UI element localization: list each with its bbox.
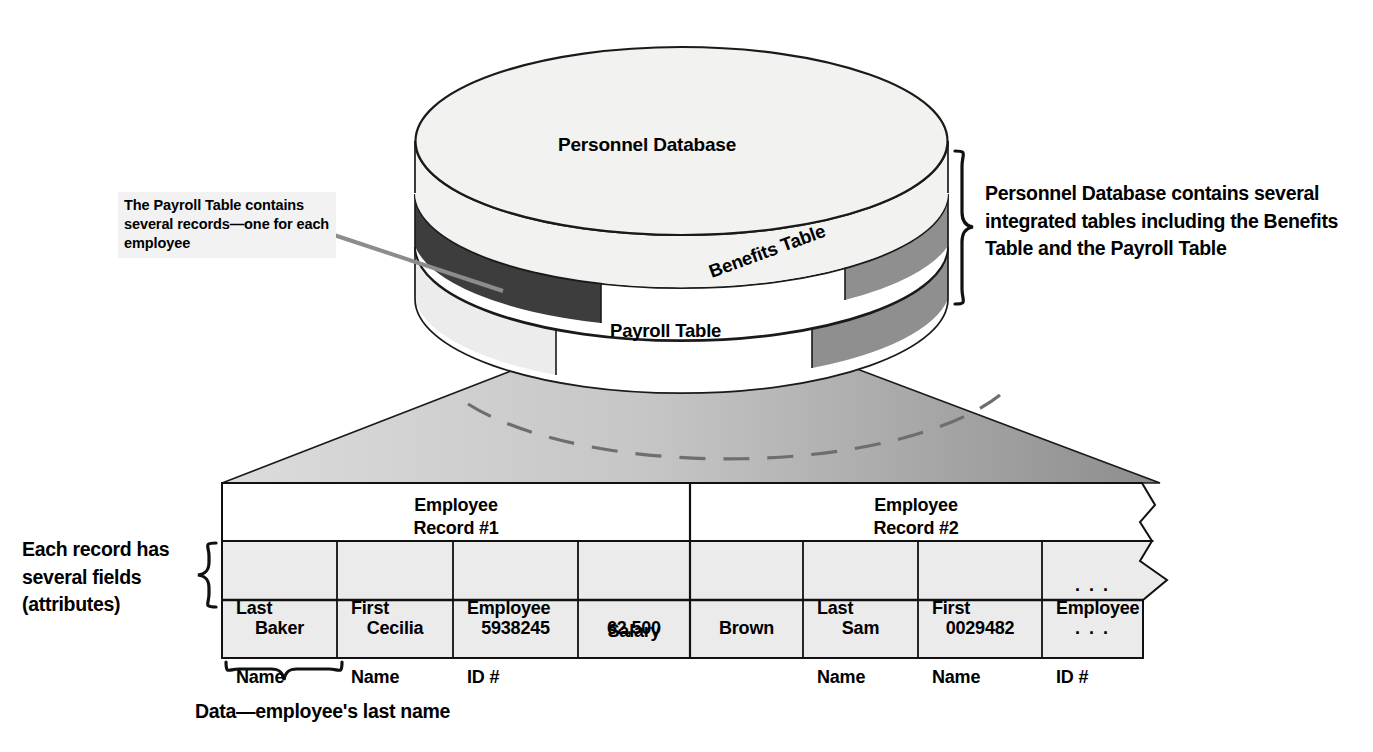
field-header-line2: Name bbox=[351, 666, 399, 689]
data-cell-last-name-1: Baker bbox=[222, 617, 337, 640]
field-header-line2: Name bbox=[932, 666, 980, 689]
field-header-line2: Name bbox=[236, 666, 284, 689]
record-header-label-2: Employee Record #2 bbox=[690, 494, 1142, 540]
data-cell-first-name-2: Sam bbox=[803, 617, 918, 640]
record-label-line2: Record #2 bbox=[690, 517, 1142, 540]
field-header-first-name-2: First Name bbox=[932, 551, 980, 735]
record-label-line1: Employee bbox=[690, 494, 1142, 517]
data-cell-last-name-2: Brown bbox=[690, 617, 803, 640]
record-header-label-1: Employee Record #1 bbox=[222, 494, 690, 540]
record-label-line1: Employee bbox=[222, 494, 690, 517]
data-cell-salary: 62,500 bbox=[578, 617, 690, 640]
field-header-last-name-1: Last Name bbox=[236, 551, 284, 735]
field-header-line2: ID # bbox=[1056, 666, 1139, 689]
field-header-line2: Name bbox=[817, 666, 865, 689]
diagram-canvas: Personnel Database Benefits Table Payrol… bbox=[0, 0, 1373, 752]
database-note-callout: Personnel Database contains several inte… bbox=[985, 180, 1345, 263]
field-header-employee-id-1: Employee ID # bbox=[467, 551, 550, 735]
field-header-first-name-1: First Name bbox=[351, 551, 399, 735]
data-caption: Data—employee's last name bbox=[195, 700, 450, 723]
data-cell-employee-id-1: 5938245 bbox=[453, 617, 578, 640]
fields-note-callout: Each record has several fields (attribut… bbox=[22, 536, 204, 619]
data-cell-first-name-1: Cecilia bbox=[337, 617, 453, 640]
database-note-brace bbox=[955, 151, 973, 304]
record-label-line2: Record #1 bbox=[222, 517, 690, 540]
field-header-last-name-2: Last Name bbox=[817, 551, 865, 735]
data-cell-ellipsis: . . . bbox=[1042, 617, 1143, 640]
field-header-line2: ID # bbox=[467, 666, 550, 689]
payroll-table-label: Payroll Table bbox=[610, 320, 721, 342]
data-cell-employee-id-2: 0029482 bbox=[918, 617, 1042, 640]
field-header-ellipsis: . . . bbox=[1042, 574, 1143, 597]
payroll-note-callout: The Payroll Table contains several recor… bbox=[118, 192, 336, 258]
cylinder-top-label: Personnel Database bbox=[558, 134, 736, 156]
